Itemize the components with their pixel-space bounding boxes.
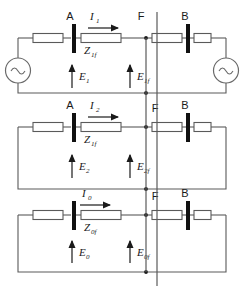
section2-loop-wires (18, 127, 226, 189)
impedance-block-left-2 (33, 123, 71, 132)
ac-source-left-1 (6, 58, 31, 83)
impedance-label-2: Z 1f (84, 133, 98, 148)
current-arrow-1: I 1 (88, 10, 118, 28)
voltage-arrow-e2: E 2 (72, 155, 90, 178)
impedance-block-z-2 (76, 123, 146, 132)
emf-sub-e1: 1 (86, 77, 90, 85)
emf-label-e2f: E (136, 160, 144, 172)
emf-sub-e2f: 2f (144, 167, 151, 175)
bus-label-f-1: F (138, 10, 145, 22)
section-positive-sequence: A B F I 1 Z 1f E 1 E 1f (6, 10, 239, 95)
current-arrow-3: I 0 (80, 187, 110, 205)
impedance-label-3: Z 0f (84, 221, 98, 236)
circuit-breaker-b-2 (186, 113, 190, 142)
impedance-block-farright-3 (190, 211, 211, 220)
voltage-arrow-e0: E 0 (72, 241, 90, 263)
breaker-label-b-2: B (181, 99, 188, 111)
emf-label-e1f: E (136, 70, 144, 82)
emf-sub-e0: 0 (86, 253, 90, 261)
impedance-block-left-1 (33, 34, 71, 43)
circuit-breaker-a-2 (72, 113, 76, 142)
impedance-block-right-1 (146, 34, 186, 43)
emf-sub-e0f: 0f (144, 253, 151, 261)
circuit-breaker-b-1 (186, 24, 190, 53)
bus-f-interconnection (146, 12, 157, 286)
section-zero-sequence: B F I 0 Z 0f E 0 E 0f (18, 187, 226, 274)
impedance-sub-1: 1f (91, 51, 98, 59)
impedance-symbol-1: Z (84, 44, 91, 56)
section-negative-sequence: A B F I 2 Z 1f E 2 E 2f (18, 99, 226, 191)
voltage-arrow-e1: E 1 (72, 65, 90, 88)
section1-loop-wires (18, 38, 226, 93)
current-label-1: I (89, 10, 95, 22)
circuit-breaker-a-3 (72, 201, 76, 230)
impedance-symbol-2: Z (84, 133, 91, 145)
emf-label-e0f: E (136, 246, 144, 258)
impedance-symbol-3: Z (84, 221, 91, 233)
current-sub-1: 1 (96, 17, 100, 25)
impedance-block-right-3 (146, 211, 186, 220)
emf-label-e0: E (78, 246, 86, 258)
current-sub-2: 2 (96, 106, 100, 114)
impedance-sub-2: 1f (91, 140, 98, 148)
emf-label-e1: E (78, 70, 86, 82)
voltage-arrow-e2f: E 2f (130, 155, 151, 178)
ac-source-right-1 (214, 58, 239, 83)
current-arrow-2: I 2 (88, 99, 118, 117)
emf-label-e2: E (78, 160, 86, 172)
impedance-label-1: Z 1f (84, 44, 98, 59)
breaker-label-a-1: A (66, 10, 74, 22)
circuit-breaker-b-3 (186, 201, 190, 230)
current-label-2: I (89, 99, 95, 111)
voltage-arrow-e0f: E 0f (130, 241, 151, 263)
voltage-arrow-e1f: E 1f (130, 65, 151, 88)
emf-sub-e2: 2 (86, 167, 90, 175)
impedance-block-right-2 (146, 123, 186, 132)
impedance-block-farright-2 (190, 123, 211, 132)
impedance-block-z-3 (76, 211, 146, 220)
impedance-block-farright-1 (190, 34, 211, 43)
section3-loop-wires (18, 215, 226, 272)
impedance-block-z-1 (76, 34, 146, 43)
circuit-diagram-canvas: A B F I 1 Z 1f E 1 E 1f (0, 0, 244, 286)
circuit-breaker-a-1 (72, 24, 76, 53)
breaker-label-b-1: B (181, 10, 188, 22)
breaker-label-a-2: A (66, 99, 74, 111)
emf-sub-e1f: 1f (144, 77, 151, 85)
current-sub-3: 0 (88, 194, 92, 202)
impedance-block-left-3 (33, 211, 71, 220)
breaker-label-b-3: B (181, 187, 188, 199)
impedance-sub-3: 0f (91, 228, 98, 236)
